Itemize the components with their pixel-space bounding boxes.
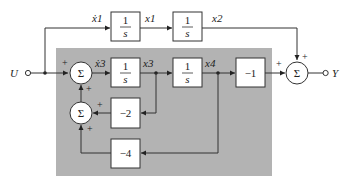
svg-text:1: 1 — [185, 60, 191, 72]
output-summer-plus-left: + — [276, 58, 282, 69]
gain-neg2: −2 — [111, 98, 140, 128]
svg-text:s: s — [123, 73, 127, 85]
input-label: U — [10, 67, 19, 79]
integrator-4: 1 s — [173, 58, 202, 87]
svg-text:−1: −1 — [245, 67, 257, 79]
summer-2-plus-bottom: + — [87, 123, 93, 134]
svg-text:1: 1 — [123, 60, 129, 72]
integrator-3: 1 s — [111, 58, 140, 87]
svg-text:Σ: Σ — [294, 67, 300, 79]
svg-text:Σ: Σ — [78, 107, 84, 119]
input-terminal — [25, 70, 30, 75]
output-summer-plus-top: + — [302, 51, 308, 62]
svg-text:−4: −4 — [120, 147, 132, 159]
output-terminal — [323, 70, 328, 75]
summer-1-plus-left: + — [62, 57, 68, 68]
signal-x3: x3 — [142, 57, 154, 69]
integrator-1: 1 s — [111, 12, 140, 41]
signal-x2: x2 — [211, 12, 223, 24]
integrator-2: 1 s — [173, 12, 202, 41]
svg-text:Σ: Σ — [78, 67, 84, 79]
svg-text:1: 1 — [123, 14, 129, 26]
signal-x1: x1 — [144, 12, 155, 24]
svg-text:1: 1 — [185, 14, 191, 26]
summer-2: Σ — [70, 102, 92, 124]
signal-x4: x4 — [204, 57, 216, 69]
summer-1-plus-bottom: + — [86, 83, 92, 94]
signal-x3dot: ẋ3 — [94, 57, 106, 69]
summer-2-plus-right: + — [97, 99, 103, 110]
output-summer: Σ — [286, 62, 308, 84]
svg-text:−2: −2 — [120, 107, 132, 119]
output-label: Y — [332, 67, 340, 79]
svg-text:s: s — [123, 27, 127, 39]
gain-neg4: −4 — [111, 139, 140, 168]
svg-text:s: s — [185, 27, 189, 39]
gain-neg1: −1 — [236, 58, 265, 87]
signal-x1dot: ẋ1 — [91, 12, 102, 24]
summer-1: Σ — [70, 62, 92, 84]
svg-text:s: s — [185, 73, 189, 85]
block-diagram: U ẋ1 1 s x1 1 s x2 Σ + + ẋ3 1 s x3 1 — [0, 0, 348, 184]
